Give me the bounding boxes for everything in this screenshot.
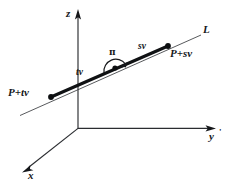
- segment-label-sv: sv: [138, 42, 146, 52]
- x-axis: [22, 128, 78, 172]
- point-label-p-plus-tv: P+tv: [8, 87, 29, 98]
- axis-label-y-prime-mark: ': [219, 128, 222, 137]
- line-label-L: L: [203, 24, 210, 35]
- point-label-p-plus-sv: P+sv: [170, 48, 192, 59]
- vector-line-figure: z y ' x L P+sv P+tv sv tv π: [0, 0, 236, 192]
- axis-label-z: z: [66, 8, 70, 19]
- axis-label-x: x: [28, 170, 34, 181]
- angle-label-pi: π: [109, 48, 116, 57]
- x-axis-line: [29, 128, 78, 167]
- axis-group: [22, 9, 216, 173]
- point-dot-p: [112, 65, 117, 70]
- axis-label-y: y: [209, 131, 214, 142]
- figure-canvas: [0, 0, 236, 192]
- segment-label-tv: tv: [76, 68, 83, 78]
- point-dot-p-plus-tv: [48, 94, 54, 100]
- y-axis: [78, 125, 216, 131]
